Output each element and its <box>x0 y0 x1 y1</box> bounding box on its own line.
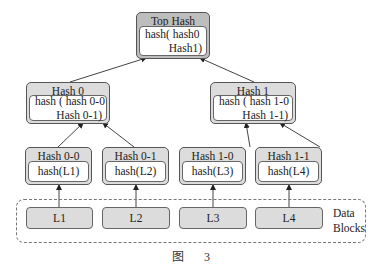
hash-1-1-node: Hash 1-1 hash(L4) <box>255 147 322 185</box>
edge-hash10-hash1 <box>246 123 250 147</box>
hash-0-1-body: hash(L2) <box>106 162 165 180</box>
top-hash-node: Top Hash hash( hash0 Hash1) <box>136 12 210 59</box>
hash-1-line1: hash ( hash 1-0 <box>219 95 289 107</box>
data-block-L1: L1 <box>26 207 93 229</box>
hash-1-0-node: Hash 1-0 hash(L3) <box>179 147 246 185</box>
caption-prefix: 图 <box>172 250 184 264</box>
hash-1-node: Hash 1 hash ( hash 1-0 Hash 1-1) <box>210 82 296 124</box>
hash-1-1-body: hash(L4) <box>259 162 318 180</box>
hash-1-line2: Hash 1-1) <box>242 109 288 121</box>
data-block-L2: L2 <box>102 207 170 229</box>
data-block-L3: L3 <box>179 207 247 229</box>
hash-0-node: Hash 0 hash ( hash 0-0 Hash 0-1) <box>26 82 110 124</box>
edge-hash00-hash0 <box>58 123 83 147</box>
edge-hash11-hash1 <box>280 123 320 147</box>
hash-0-line2: Hash 0-1) <box>56 109 102 121</box>
figure-caption: 图 3 <box>172 247 210 265</box>
edge-hash1-top <box>200 58 254 82</box>
hash-0-1-node: Hash 0-1 hash(L2) <box>102 147 169 185</box>
top-hash-line2: Hash1) <box>169 42 202 54</box>
data-block-L4: L4 <box>255 207 323 229</box>
data-blocks-label-line2: Blocks <box>333 221 365 236</box>
hash-0-0-body: hash(L1) <box>29 162 88 180</box>
edge-hash01-hash0 <box>103 123 134 147</box>
top-hash-line1: hash( hash0 <box>145 28 200 40</box>
hash-0-line1: hash ( hash 0-0 <box>35 95 105 107</box>
data-blocks-label-line1: Data <box>333 206 365 221</box>
hash-1-0-body: hash(L3) <box>183 162 242 180</box>
caption-number: 3 <box>204 250 210 264</box>
data-blocks-label: Data Blocks <box>333 206 365 236</box>
edge-hash0-top <box>70 58 146 82</box>
hash-0-0-node: Hash 0-0 hash(L1) <box>25 147 92 185</box>
